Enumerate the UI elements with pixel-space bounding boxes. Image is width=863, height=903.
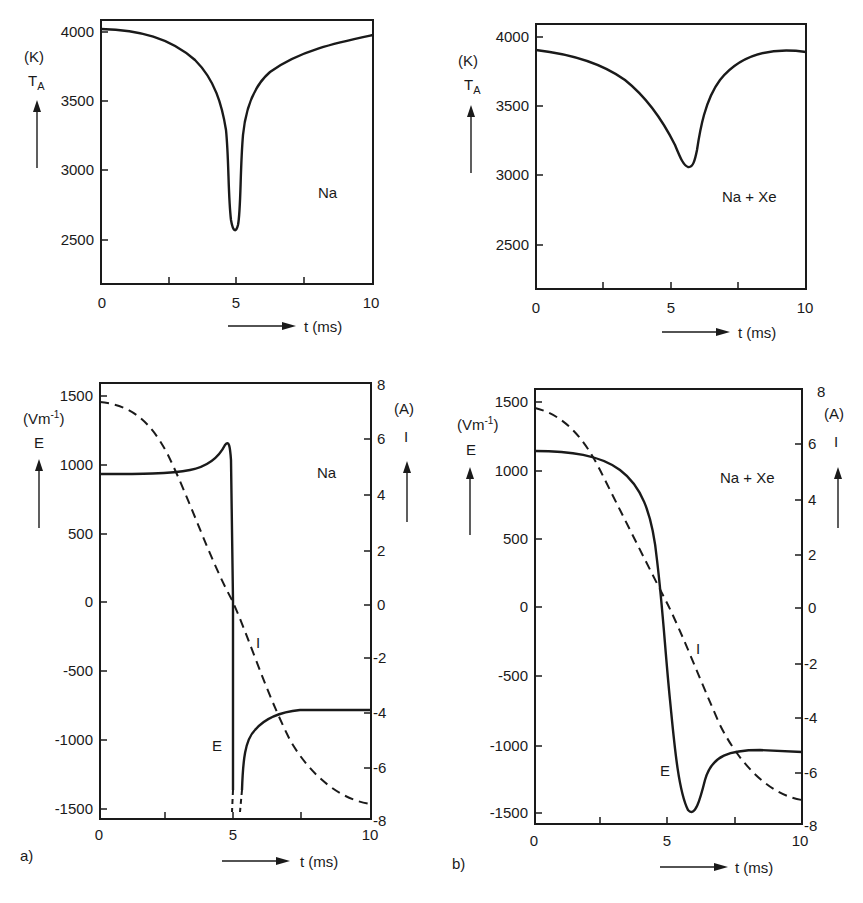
svg-text:0: 0 <box>95 826 103 843</box>
gas-label: Na <box>317 464 337 481</box>
svg-text:1500: 1500 <box>495 393 528 410</box>
svg-text:4000: 4000 <box>61 23 94 40</box>
svg-text:2500: 2500 <box>496 236 529 253</box>
svg-text:-2: -2 <box>373 649 386 666</box>
svg-text:10: 10 <box>792 832 809 849</box>
svg-text:1000: 1000 <box>495 462 528 479</box>
x-arrow-icon <box>228 322 296 330</box>
svg-text:-6: -6 <box>373 759 386 776</box>
field-curve <box>535 451 802 812</box>
svg-text:3000: 3000 <box>496 166 529 183</box>
svg-text:-4: -4 <box>373 704 386 721</box>
svg-text:10: 10 <box>362 826 379 843</box>
ticks <box>535 402 802 824</box>
y-arrow-icon <box>467 105 475 173</box>
svg-text:5: 5 <box>229 826 237 843</box>
svg-text:I: I <box>834 433 838 450</box>
e-unit-label: (Vm-1) <box>23 409 64 427</box>
svg-text:-6: -6 <box>804 764 817 781</box>
svg-text:4: 4 <box>377 486 385 503</box>
svg-text:2: 2 <box>377 542 385 559</box>
figure: 4000 3500 3000 2500 0 5 10 (K) TA t (ms)… <box>0 0 863 903</box>
svg-text:3000: 3000 <box>61 161 94 178</box>
svg-text:5: 5 <box>232 294 240 311</box>
svg-text:0: 0 <box>98 294 106 311</box>
x-arrow-icon <box>222 857 290 865</box>
plot-frame <box>536 24 806 289</box>
plot-frame <box>101 20 373 284</box>
svg-text:(A): (A) <box>824 405 844 422</box>
svg-text:500: 500 <box>68 525 93 542</box>
y-axis-symbol: TA <box>464 76 481 96</box>
plot-frame <box>100 383 371 819</box>
svg-text:-4: -4 <box>804 709 817 726</box>
curve-label-i: I <box>256 634 260 651</box>
svg-text:-2: -2 <box>804 655 817 672</box>
svg-text:1500: 1500 <box>60 387 93 404</box>
temperature-curve <box>536 50 806 167</box>
svg-text:t (ms): t (ms) <box>735 859 773 876</box>
svg-text:10: 10 <box>797 299 814 316</box>
panel-a-top: 4000 3500 3000 2500 0 5 10 (K) TA t (ms)… <box>24 20 379 335</box>
panel-b-bottom: 1500 1000 500 0 -500 -1000 -1500 8 6 4 2… <box>452 383 844 876</box>
gas-label: Na + Xe <box>720 469 775 486</box>
svg-text:5: 5 <box>667 299 675 316</box>
curve-label-e: E <box>212 737 222 754</box>
curve-label-e: E <box>660 762 670 779</box>
svg-text:4000: 4000 <box>496 28 529 45</box>
y-axis-symbol: TA <box>28 72 45 92</box>
svg-text:3500: 3500 <box>496 97 529 114</box>
svg-text:E: E <box>34 434 44 451</box>
svg-text:0: 0 <box>532 299 540 316</box>
y2-arrow-icon <box>403 461 411 522</box>
ticks <box>536 37 738 289</box>
curve-label-i: I <box>696 640 700 657</box>
y2-arrow-icon <box>834 467 842 528</box>
svg-text:2500: 2500 <box>61 231 94 248</box>
svg-text:-1000: -1000 <box>55 731 93 748</box>
svg-text:10: 10 <box>363 294 380 311</box>
svg-text:3500: 3500 <box>61 92 94 109</box>
svg-text:8: 8 <box>817 383 825 400</box>
svg-text:0: 0 <box>377 596 385 613</box>
svg-text:0: 0 <box>85 593 93 610</box>
field-curve-recovery <box>242 710 371 790</box>
svg-text:-1500: -1500 <box>490 804 528 821</box>
x-arrow-icon <box>660 863 728 871</box>
svg-text:(K): (K) <box>458 52 478 69</box>
gas-label: Na + Xe <box>722 188 777 205</box>
panel-label: b) <box>452 855 465 872</box>
svg-text:t (ms): t (ms) <box>300 853 338 870</box>
svg-text:-1000: -1000 <box>490 737 528 754</box>
svg-text:-500: -500 <box>63 662 93 679</box>
gas-label: Na <box>318 184 338 201</box>
svg-text:-500: -500 <box>498 667 528 684</box>
current-curve <box>100 402 371 804</box>
svg-text:2: 2 <box>808 546 816 563</box>
svg-text:6: 6 <box>808 435 816 452</box>
y-arrow-icon <box>35 459 43 528</box>
svg-text:5: 5 <box>663 832 671 849</box>
y-arrow-icon <box>466 467 474 535</box>
x-arrow-icon <box>662 328 730 336</box>
svg-text:6: 6 <box>377 430 385 447</box>
svg-text:500: 500 <box>503 530 528 547</box>
e-unit-label: (Vm-1) <box>457 415 498 433</box>
svg-text:-1500: -1500 <box>55 800 93 817</box>
svg-text:0: 0 <box>530 832 538 849</box>
svg-text:4: 4 <box>808 491 816 508</box>
current-curve <box>535 408 802 800</box>
panel-label: a) <box>20 847 33 864</box>
svg-text:1000: 1000 <box>60 456 93 473</box>
svg-text:t (ms): t (ms) <box>304 318 342 335</box>
svg-text:(A): (A) <box>394 400 414 417</box>
svg-text:(K): (K) <box>24 48 44 65</box>
panel-b-top: 4000 3500 3000 2500 0 5 10 (K) TA t (ms)… <box>458 24 813 341</box>
svg-text:I: I <box>404 428 408 445</box>
svg-text:t (ms): t (ms) <box>738 324 776 341</box>
svg-text:0: 0 <box>520 598 528 615</box>
y-arrow-icon <box>33 100 41 168</box>
panel-a-bottom: 1500 1000 500 0 -500 -1000 -1500 8 6 4 2… <box>20 376 414 870</box>
field-curve-dashed-gap <box>232 790 242 812</box>
svg-text:8: 8 <box>377 376 385 393</box>
